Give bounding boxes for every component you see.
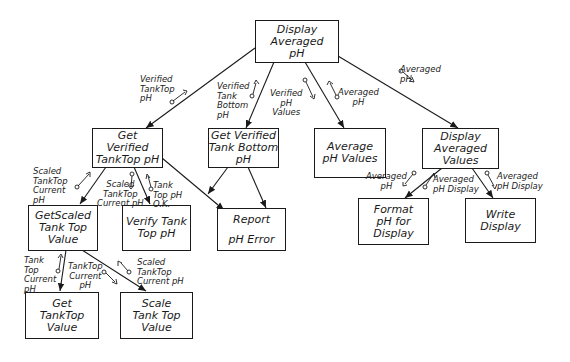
module-get-verified-tanktop-ph: Get Verified TankTop pH <box>92 128 163 168</box>
module-label: Display Averaged pH <box>271 24 324 60</box>
couple-scaled-tanktop-current-ph-up: Scaled TankTop Current pH <box>33 167 68 205</box>
couple-scaled-tanktop-current-ph-return: Scaled TankTop Current pH <box>137 258 184 287</box>
module-label: Get TankTop Value <box>40 298 85 334</box>
couple-averaged-ph-to-display: Averaged pH <box>400 65 441 84</box>
module-format-ph-for-display: Format pH for Display <box>358 198 429 245</box>
module-get-verified-tank-bottom-ph: Get Verified Tank Bottom pH <box>208 128 279 168</box>
couple-verified-tanktop-ph: Verified TankTop pH <box>140 75 175 104</box>
couple-averaged-ph-display-write: Averaged pH Display <box>497 172 543 191</box>
module-label: Report pH Error <box>229 215 275 245</box>
module-label: Format pH for Display <box>373 204 414 240</box>
couple-tanktop-current-ph: TankTop Current pH <box>68 262 103 291</box>
module-label: Get Verified Tank Bottom pH <box>209 130 279 166</box>
couple-verified-ph-values: Verified pH Values <box>270 89 303 118</box>
couple-verified-tank-bottom-ph: Verified Tank Bottom pH <box>217 82 250 120</box>
module-label: Verify Tank Top pH <box>126 216 187 240</box>
module-label: Write Display <box>480 209 521 233</box>
module-verify-tank-top-ph: Verify Tank Top pH <box>122 205 191 251</box>
couple-averaged-ph-display-format: Averaged pH Display <box>433 175 479 194</box>
module-label: Scale Tank Top Value <box>132 298 180 334</box>
module-label: Display Averaged Values <box>434 131 487 167</box>
module-get-tanktop-value: Get TankTop Value <box>25 292 99 339</box>
module-label: Average pH Values <box>323 141 378 165</box>
module-display-averaged-values: Display Averaged Values <box>422 128 499 169</box>
couple-tank-top-current-ph: Tank Top Current pH <box>24 256 56 294</box>
module-display-averaged-ph: Display Averaged pH <box>255 20 339 63</box>
module-report-ph-error: Report pH Error <box>217 208 286 251</box>
couple-averaged-ph-format: Averaged pH <box>366 172 407 191</box>
module-label: GetScaled Tank Top Value <box>35 210 91 246</box>
couple-scaled-tanktop-current-ph-down: Scaled TankTop Current pH <box>97 180 144 209</box>
module-write-display: Write Display <box>465 198 536 243</box>
couple-averaged-ph-to-average: Averaged pH <box>338 88 379 107</box>
module-get-scaled-tank-top-value: GetScaled Tank Top Value <box>28 205 98 251</box>
module-scale-tank-top-value: Scale Tank Top Value <box>120 292 193 339</box>
module-label: Get Verified TankTop pH <box>96 130 159 166</box>
couple-tank-top-ph-ok: Tank Top pH O.K. <box>153 181 182 210</box>
